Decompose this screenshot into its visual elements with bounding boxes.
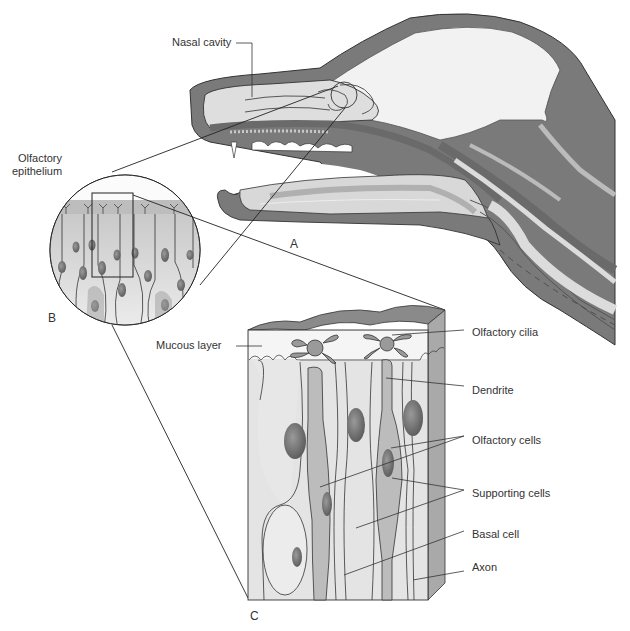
label-dendrite: Dendrite: [472, 384, 514, 396]
panel-b-epithelium-circle: [50, 175, 200, 334]
zoom-line-box-bottom: [112, 325, 248, 598]
panel-c-epithelium-block: [248, 305, 445, 600]
panel-label-b: B: [48, 311, 56, 325]
olfactory-anatomy-diagram: Nasal cavity A: [0, 0, 630, 631]
label-supporting-cells: Supporting cells: [472, 487, 551, 499]
label-olfactory-epithelium-1: Olfactory: [18, 152, 63, 164]
label-nasal-cavity: Nasal cavity: [172, 36, 232, 48]
label-olfactory-cilia: Olfactory cilia: [472, 326, 539, 338]
label-axon: Axon: [472, 561, 497, 573]
panel-label-a: A: [290, 237, 298, 251]
label-basal-cell: Basal cell: [472, 528, 519, 540]
panel-label-c: C: [250, 609, 259, 623]
canine-tooth: [231, 142, 237, 158]
panel-a-head-section: [190, 14, 615, 345]
label-mucous-layer: Mucous layer: [156, 339, 222, 351]
label-olfactory-epithelium-2: epithelium: [12, 165, 62, 177]
label-olfactory-cells: Olfactory cells: [472, 434, 542, 446]
